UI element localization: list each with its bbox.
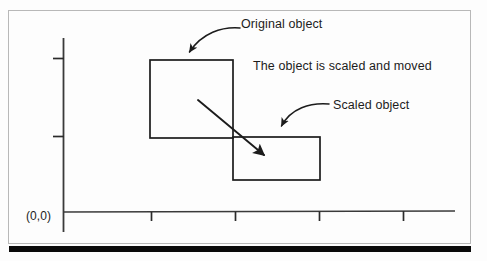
x-axis-line	[63, 211, 455, 212]
origin-label: (0,0)	[26, 209, 51, 223]
annotation-scaled-object: Scaled object	[333, 98, 409, 112]
figure-border	[9, 11, 471, 244]
annotation-scaled-and-moved: The object is scaled and moved	[253, 59, 432, 73]
bottom-black-bar	[9, 246, 471, 252]
annotation-original-object: Original object	[241, 17, 322, 31]
transformation-diagram	[0, 0, 487, 261]
figure-container: Original object The object is scaled and…	[0, 0, 487, 261]
